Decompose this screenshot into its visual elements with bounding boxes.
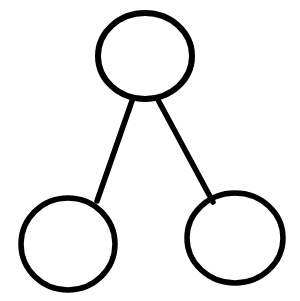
- number-bond-diagram: [0, 0, 300, 301]
- diagram-canvas: [0, 0, 300, 301]
- canvas-background: [0, 0, 300, 301]
